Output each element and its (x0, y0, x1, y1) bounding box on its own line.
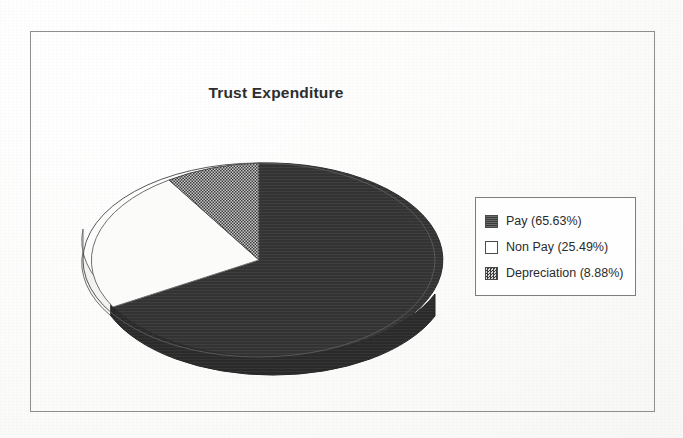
legend-item-depreciation: Depreciation (8.88%) (485, 262, 626, 284)
chart-frame: Trust Expenditure (30, 31, 655, 412)
legend-label-depreciation: Depreciation (8.88%) (506, 267, 623, 280)
legend-swatch-non-pay-icon (485, 241, 498, 254)
legend-label-non-pay: Non Pay (25.49%) (506, 241, 608, 254)
chart-legend: Pay (65.63%) Non Pay (25.49%) Depreciati… (475, 197, 636, 296)
legend-label-pay: Pay (65.63%) (506, 215, 582, 228)
legend-item-non-pay: Non Pay (25.49%) (485, 236, 626, 258)
page-background: Trust Expenditure (0, 0, 683, 438)
legend-item-pay: Pay (65.63%) (485, 210, 626, 232)
legend-swatch-pay-icon (485, 215, 498, 228)
legend-swatch-depreciation-icon (485, 267, 498, 280)
